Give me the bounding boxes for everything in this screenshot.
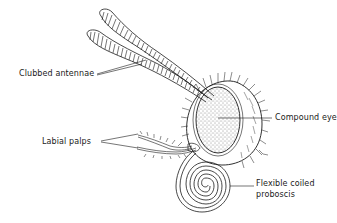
proboscis-drawing	[176, 152, 230, 212]
label-proboscis-line1: Flexible coiled	[256, 179, 315, 188]
antennae-drawing	[87, 9, 214, 102]
label-labial-palps: Labial palps	[42, 137, 91, 146]
labial-palps-drawing	[137, 131, 200, 159]
label-proboscis-line2: proboscis	[256, 190, 295, 199]
antennae-leader-upper	[97, 60, 146, 74]
label-compound-eye: Compound eye	[275, 113, 337, 122]
palps-leader-upper	[101, 134, 138, 141]
label-clubbed-antennae: Clubbed antennae	[19, 69, 94, 78]
palps-leader-lower	[101, 142, 138, 148]
antennae-leader-lower	[97, 64, 142, 75]
